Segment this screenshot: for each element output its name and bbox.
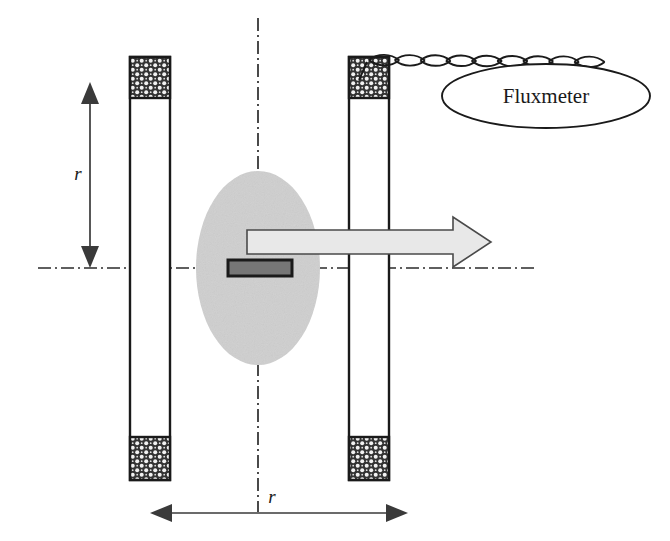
left-coil (130, 57, 170, 480)
left-coil-bottom-winding (130, 437, 170, 480)
vertical-radius-label: r (74, 163, 82, 184)
right-coil (349, 57, 389, 480)
left-coil-top-winding (130, 57, 170, 98)
horizontal-dimension-arrowhead-right (386, 504, 408, 522)
fluxmeter-label: Fluxmeter (503, 84, 589, 108)
vertical-dimension-arrowhead-bottom (81, 246, 99, 268)
right-coil-top-winding (349, 57, 389, 98)
horizontal-radius-label: r (268, 486, 276, 507)
fluxmeter[interactable]: Fluxmeter (442, 64, 650, 128)
vertical-radius-dimension: r (74, 82, 99, 268)
specimen-bar (228, 260, 292, 276)
diagram-canvas: Fluxmeter r r (0, 0, 670, 541)
horizontal-radius-dimension: r (150, 486, 408, 522)
vertical-dimension-arrowhead-top (81, 82, 99, 104)
helmholtz-fluxmeter-diagram: Fluxmeter r r (0, 0, 670, 541)
right-coil-bottom-winding (349, 437, 389, 480)
right-coil-bobbin (349, 57, 389, 480)
left-coil-bobbin (130, 57, 170, 480)
horizontal-dimension-arrowhead-left (150, 504, 172, 522)
